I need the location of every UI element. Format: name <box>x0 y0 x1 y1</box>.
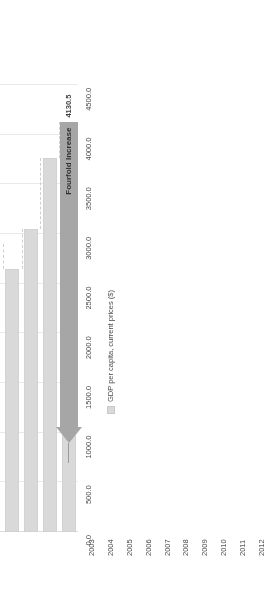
value-axis: 0.0500.01000.01500.02000.02500.03000.035… <box>0 532 100 604</box>
left-arrow-icon <box>56 427 82 443</box>
bar-row <box>24 60 38 532</box>
bar-connector <box>3 244 4 269</box>
fourfold-increase-annotation: Fourfold Increase <box>56 122 82 443</box>
category-axis: 2003200420052006200720082009201020112012 <box>82 60 100 532</box>
annotation-leader-line <box>68 443 69 463</box>
plot-area: Fourfold Increase 924.44130.5 <box>0 60 78 532</box>
annotation-text: Fourfold Increase <box>61 128 77 195</box>
bar-chart-figure: 0.0500.01000.01500.02000.02500.03000.035… <box>0 0 125 604</box>
legend-swatch-icon <box>107 406 115 414</box>
bar-2009 <box>5 269 19 532</box>
bar-row <box>5 60 19 532</box>
data-label-2012: 4130.5 <box>64 95 73 118</box>
legend-label: GDP per capita, current prices ($) <box>106 290 115 402</box>
rotated-figure-wrapper: 0.0500.01000.01500.02000.02500.03000.035… <box>0 0 243 604</box>
bar-connector <box>22 229 23 269</box>
bar-2010 <box>24 229 38 532</box>
bar-connector <box>40 158 41 229</box>
chart-legend: GDP per capita, current prices ($) <box>106 290 115 414</box>
